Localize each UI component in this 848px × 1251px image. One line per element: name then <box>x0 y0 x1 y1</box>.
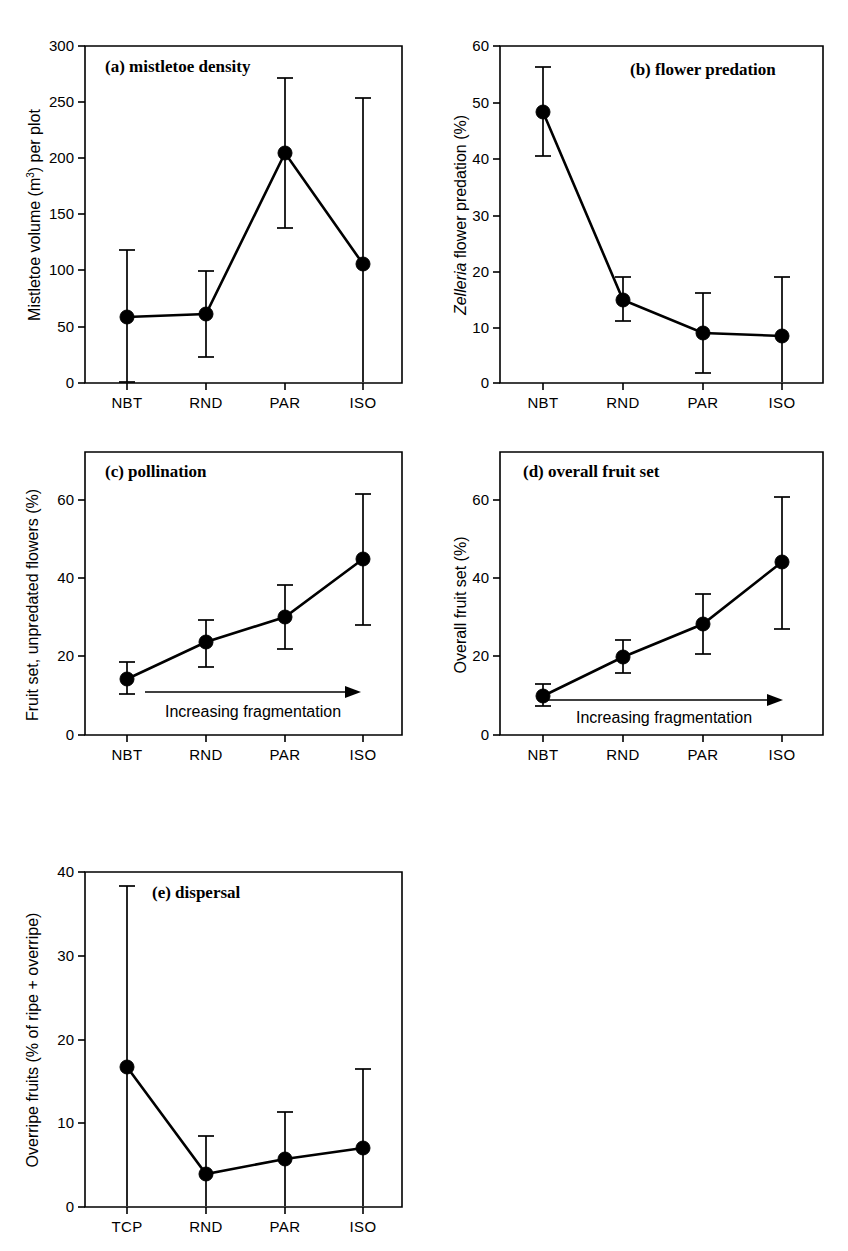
panel-a-series-line <box>127 153 363 317</box>
y-tick-label: 60 <box>472 37 489 54</box>
panel-d-x-ticks <box>543 735 782 742</box>
panel-b-y-axis-title: Zelleria flower predation (%) <box>452 115 469 316</box>
panel-c-title: (c) pollination <box>105 462 207 481</box>
panel-b-series-line <box>543 112 782 336</box>
y-tick-label: 10 <box>57 1114 74 1131</box>
panel-e-frame <box>85 872 402 1207</box>
data-point <box>696 326 710 340</box>
y-tick-label: 0 <box>481 374 489 391</box>
panel-e-dispersal: Overripe fruits (% of ripe + overripe) 4… <box>0 840 424 1251</box>
figure-root: Mistletoe volume (m3) per plot 300 250 2… <box>0 0 848 1251</box>
y-tick-label: 0 <box>66 726 74 743</box>
y-tick-label: 20 <box>472 263 489 280</box>
panel-c-y-tick-labels: 60 40 20 0 <box>57 491 74 743</box>
panel-b-y-tick-labels: 60 50 40 30 20 10 0 <box>472 37 489 391</box>
y-tick-label: 100 <box>49 261 74 278</box>
panel-a-y-tick-labels: 300 250 200 150 100 50 0 <box>49 37 74 391</box>
panel-b-flower-predation: Zelleria flower predation (%) 60 50 40 3… <box>424 0 848 420</box>
data-point <box>120 672 134 686</box>
x-tick-label: ISO <box>349 1218 376 1235</box>
data-point <box>775 555 789 569</box>
fragmentation-arrow-label: Increasing fragmentation <box>576 709 752 726</box>
x-tick-label: PAR <box>270 394 301 411</box>
y-tick-label: 40 <box>472 569 489 586</box>
x-tick-label: RND <box>189 746 223 763</box>
y-axis-title-text: Fruit set, unpredated flowers (%) <box>24 489 41 721</box>
y-tick-label: 10 <box>472 319 489 336</box>
fragmentation-arrow-label: Increasing fragmentation <box>165 703 341 720</box>
y-tick-label: 150 <box>49 205 74 222</box>
data-point <box>199 635 213 649</box>
panel-b-x-ticks <box>543 383 782 390</box>
panel-c-series-line <box>127 559 363 679</box>
y-tick-label: 60 <box>472 491 489 508</box>
x-tick-label: ISO <box>768 746 795 763</box>
panel-c-y-ticks <box>78 500 85 735</box>
y-axis-title-rest: flower predation (%) <box>452 115 469 263</box>
panel-a-y-axis-title: Mistletoe volume (m3) per plot <box>25 109 43 321</box>
y-axis-title-pre: Mistletoe volume (m <box>26 178 43 321</box>
panel-b-title: (b) flower predation <box>630 60 776 79</box>
data-point <box>536 689 550 703</box>
panel-d-series-line <box>543 562 782 696</box>
panel-a-x-tick-labels: NBT RND PAR ISO <box>111 394 376 411</box>
data-point <box>278 146 292 160</box>
x-tick-label: PAR <box>270 1218 301 1235</box>
y-tick-label: 40 <box>57 569 74 586</box>
panel-a-y-ticks <box>78 46 85 383</box>
x-tick-label: ISO <box>349 746 376 763</box>
panel-a-x-ticks <box>127 383 363 390</box>
fragmentation-arrow-head <box>767 694 783 706</box>
x-tick-label: ISO <box>349 394 376 411</box>
x-tick-label: TCP <box>111 1218 142 1235</box>
x-tick-label: RND <box>606 746 640 763</box>
data-point <box>278 610 292 624</box>
y-tick-label: 300 <box>49 37 74 54</box>
panel-e-x-ticks <box>127 1207 363 1214</box>
y-tick-label: 40 <box>57 863 74 880</box>
data-point <box>775 329 789 343</box>
y-tick-label: 200 <box>49 149 74 166</box>
svg-text:Mistletoe volume (m3) per plot: Mistletoe volume (m3) per plot <box>25 109 43 321</box>
panel-c-x-tick-labels: NBT RND PAR ISO <box>111 746 376 763</box>
y-tick-label: 20 <box>57 1031 74 1048</box>
panel-d-title: (d) overall fruit set <box>523 462 660 481</box>
x-tick-label: NBT <box>111 394 142 411</box>
y-tick-label: 40 <box>472 150 489 167</box>
panel-d-overall-fruit-set: Overall fruit set (%) 60 40 20 0 <box>424 420 848 840</box>
y-tick-label: 50 <box>472 94 489 111</box>
panel-c-fragmentation-annotation: Increasing fragmentation <box>145 686 361 720</box>
panel-d-y-tick-labels: 60 40 20 0 <box>472 491 489 743</box>
y-tick-label: 250 <box>49 93 74 110</box>
panel-e-error-bars <box>119 886 371 1206</box>
fragmentation-arrow-head <box>345 686 361 698</box>
x-tick-label: ISO <box>768 394 795 411</box>
y-axis-title-text: Overall fruit set (%) <box>452 537 469 674</box>
x-tick-label: RND <box>189 1218 223 1235</box>
data-point <box>356 257 370 271</box>
y-tick-label: 50 <box>57 318 74 335</box>
x-tick-label: PAR <box>688 394 719 411</box>
y-tick-label: 20 <box>57 647 74 664</box>
panel-a-frame <box>85 46 402 383</box>
x-tick-label: NBT <box>527 746 558 763</box>
data-point <box>616 650 630 664</box>
x-tick-label: NBT <box>527 394 558 411</box>
panel-a-title: (a) mistletoe density <box>105 57 251 76</box>
panel-b-data-points <box>536 105 789 343</box>
x-tick-label: RND <box>606 394 640 411</box>
panel-e-y-axis-title: Overripe fruits (% of ripe + overripe) <box>24 913 41 1168</box>
x-tick-label: PAR <box>270 746 301 763</box>
data-point <box>199 1167 213 1181</box>
data-point <box>356 552 370 566</box>
panel-d-y-axis-title: Overall fruit set (%) <box>452 537 469 674</box>
panel-e-y-tick-labels: 40 30 20 10 0 <box>57 863 74 1215</box>
y-axis-title-text: Overripe fruits (% of ripe + overripe) <box>24 913 41 1168</box>
panel-d-error-bars <box>535 497 790 706</box>
panel-c-y-axis-title: Fruit set, unpredated flowers (%) <box>24 489 41 721</box>
panel-b-x-tick-labels: NBT RND PAR ISO <box>527 394 795 411</box>
panel-b-y-ticks <box>493 46 500 383</box>
panel-e-data-points <box>120 1060 370 1181</box>
x-tick-label: NBT <box>111 746 142 763</box>
panel-c-pollination: Fruit set, unpredated flowers (%) 60 40 … <box>0 420 424 840</box>
